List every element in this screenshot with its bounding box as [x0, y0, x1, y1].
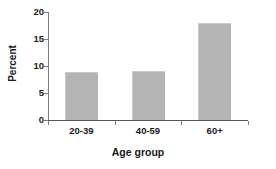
bar [132, 71, 165, 120]
x-tick-label: 40-59 [136, 126, 160, 136]
bar [65, 72, 98, 120]
y-tick-mark [44, 39, 48, 40]
y-axis-title: Percent [0, 0, 24, 126]
y-tick-label: 15 [24, 34, 44, 44]
x-tick-label: 60+ [207, 126, 223, 136]
y-axis-title-text: Percent [7, 45, 18, 82]
x-tick-label: 20-39 [69, 126, 93, 136]
x-axis-title: Age group [0, 146, 276, 158]
bars-container [48, 12, 248, 120]
plot-area [48, 12, 248, 120]
y-tick-mark [44, 66, 48, 67]
y-tick-label: 0 [24, 115, 44, 125]
y-tick-label: 10 [24, 61, 44, 71]
x-tick-mark [248, 121, 249, 125]
x-tick-mark [181, 121, 182, 125]
y-tick-mark [44, 93, 48, 94]
y-tick-mark [44, 12, 48, 13]
y-tick-label: 20 [24, 7, 44, 17]
y-tick-label: 5 [24, 88, 44, 98]
y-axis-tick-labels: 05101520 [22, 0, 44, 126]
bar-chart-figure: Percent 05101520 20-3940-5960+ Age group [0, 0, 276, 169]
x-axis-line [48, 120, 248, 121]
x-axis-tick-labels: 20-3940-5960+ [48, 126, 248, 142]
x-tick-mark [48, 121, 49, 125]
x-tick-mark [115, 121, 116, 125]
bar [198, 23, 231, 120]
